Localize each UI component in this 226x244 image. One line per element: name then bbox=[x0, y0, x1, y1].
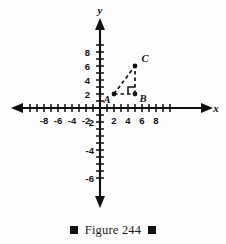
y-axis-up-arrow-icon bbox=[95, 18, 105, 30]
x-tick-label-neg4: -4 bbox=[68, 115, 77, 126]
vertex-point-c bbox=[133, 64, 138, 69]
x-tick-label-2: 2 bbox=[111, 115, 116, 126]
figure-caption: Figure 244 bbox=[0, 216, 226, 244]
triangle-abc: A B C bbox=[102, 53, 149, 105]
y-tick-label-neg6: -6 bbox=[86, 173, 94, 184]
vertex-label-c: C bbox=[141, 53, 149, 64]
vertex-label-a: A bbox=[102, 94, 110, 105]
caption-left-square-icon bbox=[70, 226, 78, 234]
x-tick-label-6: 6 bbox=[139, 115, 144, 126]
x-tick-label-neg6: -6 bbox=[54, 115, 62, 126]
y-tick-label-neg2: -2 bbox=[86, 117, 94, 128]
x-axis-label: x bbox=[212, 102, 219, 114]
y-tick-label-6: 6 bbox=[85, 61, 90, 72]
figure-page: -8 -6 -4 -2 2 4 6 8 x bbox=[0, 0, 226, 244]
vertex-point-a bbox=[112, 92, 117, 97]
x-axis-left-arrow-icon bbox=[11, 103, 23, 113]
x-tick-label-neg8: -8 bbox=[40, 115, 48, 126]
segment-ac bbox=[114, 66, 135, 94]
y-axis-label: y bbox=[96, 4, 103, 16]
x-tick-label-4: 4 bbox=[125, 115, 131, 126]
vertex-point-b bbox=[133, 92, 138, 97]
y-axis: 8 6 4 2 -2 -4 -6 y bbox=[85, 4, 105, 208]
y-tick-label-2: 2 bbox=[85, 89, 90, 100]
y-axis-down-arrow-icon bbox=[95, 196, 105, 208]
caption-label: Figure 244 bbox=[85, 223, 142, 238]
coordinate-plane: -8 -6 -4 -2 2 4 6 8 x bbox=[0, 0, 226, 216]
y-tick-label-8: 8 bbox=[85, 47, 90, 58]
caption-right-square-icon bbox=[148, 226, 156, 234]
x-axis: -8 -6 -4 -2 2 4 6 8 x bbox=[11, 102, 219, 126]
y-tick-label-neg4: -4 bbox=[86, 145, 95, 156]
y-tick-label-4: 4 bbox=[85, 75, 91, 86]
x-tick-label-8: 8 bbox=[153, 115, 158, 126]
vertex-label-b: B bbox=[138, 93, 146, 104]
x-axis-right-arrow-icon bbox=[201, 103, 213, 113]
